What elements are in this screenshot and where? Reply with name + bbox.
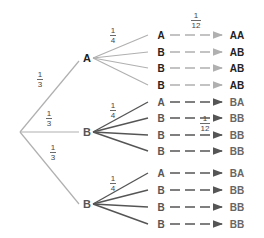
node-level2-a: A: [157, 168, 164, 179]
fraction-denominator: 12: [201, 124, 210, 133]
node-level1-b-1: B: [83, 126, 91, 138]
node-level1-b-2: B: [83, 198, 91, 210]
fraction-denominator: 4: [111, 111, 116, 120]
fraction-numerator: 1: [203, 114, 208, 123]
branch-2-0: [93, 173, 148, 204]
outcome-ab: AB: [230, 47, 244, 58]
node-level1-a-0: A: [83, 52, 91, 64]
prob-label-level1-a: 13: [37, 70, 43, 89]
branch-1-1: [93, 118, 148, 132]
fraction-denominator: 3: [47, 119, 52, 128]
outcome-bb: BB: [230, 146, 244, 157]
fraction-denominator: 12: [192, 21, 201, 30]
node-level2-b: B: [157, 47, 164, 58]
branch-0-3: [93, 58, 148, 85]
fraction-numerator: 1: [111, 174, 116, 183]
prob-label-level2-group0: 14: [110, 26, 116, 45]
fraction-denominator: 4: [111, 184, 116, 193]
node-level2-b: B: [157, 80, 164, 91]
outcome-bb: BB: [230, 185, 244, 196]
tree-branches: [20, 35, 222, 224]
node-level2-b: B: [157, 63, 164, 74]
prob-label-level1-b2: 13: [50, 143, 56, 162]
outcome-bb: BB: [230, 113, 244, 124]
node-level2-b: B: [157, 113, 164, 124]
node-level2-b: B: [157, 130, 164, 141]
branch-0-2: [93, 58, 148, 68]
outcome-ab: AB: [230, 63, 244, 74]
prob-label-level2-group2: 14: [110, 174, 116, 193]
fraction-numerator: 1: [51, 143, 56, 152]
outcome-bb: BB: [230, 219, 244, 230]
probability-tree-diagram: 131313ABBAAABABBABBAB14ABABBBBBBBBB14ABA…: [0, 0, 264, 238]
fraction-denominator: 3: [38, 80, 43, 89]
branch-level1-2: [20, 132, 79, 204]
outcome-bb: BB: [230, 202, 244, 213]
node-level2-a: A: [157, 97, 164, 108]
outcome-ba: BA: [230, 97, 244, 108]
node-level2-a: A: [157, 30, 164, 41]
fraction-numerator: 1: [111, 26, 116, 35]
prob-label-outcome-bb: 112: [200, 114, 210, 133]
branch-1-0: [93, 102, 148, 132]
prob-label-level2-group1: 14: [110, 101, 116, 120]
fraction-numerator: 1: [38, 70, 43, 79]
fraction-numerator: 1: [47, 109, 52, 118]
outcome-ab: AB: [230, 80, 244, 91]
prob-label-level1-b1: 13: [46, 109, 52, 128]
fraction-numerator: 1: [111, 101, 116, 110]
fraction-numerator: 1: [194, 11, 199, 20]
prob-label-outcome-aa: 112: [191, 11, 201, 30]
outcome-aa: AA: [230, 30, 244, 41]
node-level2-b: B: [157, 202, 164, 213]
outcome-ba: BA: [230, 168, 244, 179]
node-level2-b: B: [157, 185, 164, 196]
node-level2-b: B: [157, 146, 164, 157]
node-level2-b: B: [157, 219, 164, 230]
outcome-bb: BB: [230, 130, 244, 141]
fraction-denominator: 3: [51, 153, 56, 162]
fraction-denominator: 4: [111, 36, 116, 45]
branch-2-1: [93, 190, 148, 204]
